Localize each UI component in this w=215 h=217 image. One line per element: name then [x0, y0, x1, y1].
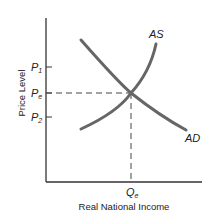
x-axis-title: Real National Income	[79, 201, 170, 212]
y-axis-title: Price Level	[16, 70, 27, 117]
qe-label: Qe	[126, 186, 139, 199]
p2-label: P2	[31, 111, 42, 124]
as-curve	[81, 44, 156, 129]
p1-label: P1	[31, 61, 42, 74]
pe-label: Pe	[31, 87, 42, 100]
as-label: AS	[148, 28, 164, 40]
chart-canvas: AS AD P1 Pe P2 Qe Real National Income P…	[0, 0, 215, 217]
ad-curve	[81, 40, 186, 130]
ad-label: AD	[184, 132, 200, 144]
